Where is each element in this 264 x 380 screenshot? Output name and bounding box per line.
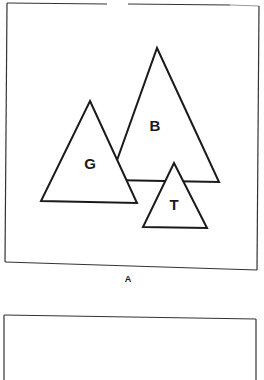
panel-b-frame	[4, 315, 256, 380]
label-t: T	[169, 196, 178, 213]
diagram-canvas: B G T A	[0, 0, 264, 380]
panel-a-caption: A	[125, 274, 132, 284]
label-g: G	[84, 155, 96, 172]
label-b: B	[150, 117, 161, 134]
triangle-b	[110, 48, 219, 182]
